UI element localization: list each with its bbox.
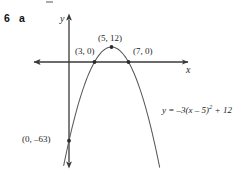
point-root-left [93,60,97,64]
equation-main: y = –3(x – 5) [162,105,209,115]
question-number: 6 [4,12,10,24]
left-root-point-label: (3, 0) [75,46,95,56]
vertex-point-label: (5, 12) [98,33,122,43]
y-intercept-point-label: (0, –63) [22,134,51,144]
point-vertex [110,45,114,49]
equation-label: y = –3(x – 5)2 + 12 [162,105,232,115]
x-axis [34,59,189,65]
right-root-point-label: (7, 0) [133,46,153,56]
parabola-curve [64,47,160,167]
y-axis [66,14,72,169]
point-y-intercept [67,139,71,143]
point-root-right [127,60,131,64]
y-axis-label: y [60,13,64,24]
coordinate-plot [0,0,251,174]
x-axis-label: x [186,64,190,75]
y-axis-bottom-arrowhead [66,162,72,169]
parabola-figure: 6 a y x (5, 12) (3, 0) (7, [0,0,251,174]
question-part-letter: a [19,12,25,24]
y-axis-top-arrowhead [66,14,72,21]
equation-tail: + 12 [212,105,232,115]
scan-artifact-mark [46,1,53,3]
